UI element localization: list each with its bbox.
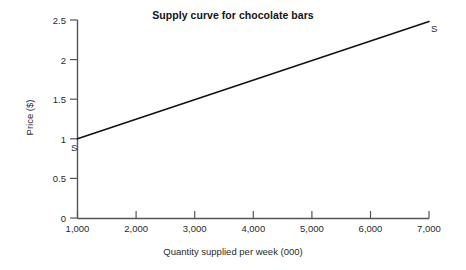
- supply-curve-label-upper: S: [431, 23, 437, 34]
- chart-figure: Supply curve for chocolate bars 0: [0, 0, 466, 270]
- x-tick-label-4000: 4,000: [241, 223, 265, 234]
- y-tick-label-1-5: 1.5: [40, 94, 66, 105]
- y-tick-label-2: 2: [40, 54, 66, 65]
- x-tick-label-3000: 3,000: [183, 223, 207, 234]
- supply-curve-label-lower: S: [71, 142, 77, 153]
- x-tick-label-1000: 1,000: [66, 223, 90, 234]
- x-tick-label-5000: 5,000: [300, 223, 324, 234]
- y-axis-ticks: [70, 20, 78, 218]
- x-tick-label-2000: 2,000: [124, 223, 148, 234]
- x-tick-label-7000: 7,000: [417, 223, 441, 234]
- supply-curve-line: [78, 22, 430, 139]
- y-tick-label-1: 1: [40, 133, 66, 144]
- y-tick-label-0-5: 0.5: [40, 173, 66, 184]
- y-axis-title: Price ($): [24, 83, 35, 153]
- x-axis-ticks: [78, 211, 430, 219]
- x-tick-label-6000: 6,000: [359, 223, 383, 234]
- x-axis-title: Quantity supplied per week (000): [0, 246, 466, 257]
- y-tick-label-0: 0: [40, 213, 66, 224]
- y-tick-label-2-5: 2.5: [40, 15, 66, 26]
